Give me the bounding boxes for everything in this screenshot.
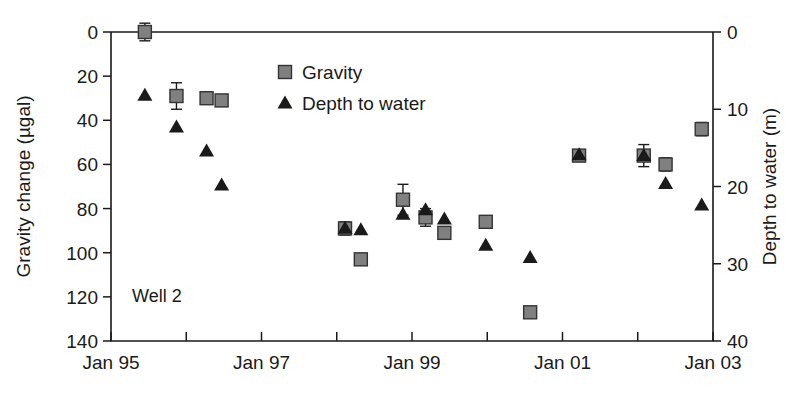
data-point-depth	[137, 88, 152, 101]
data-point-depth	[694, 198, 709, 211]
plot-frame	[111, 32, 713, 341]
data-point-depth	[523, 250, 538, 263]
y-axis-tick-label: 140	[66, 331, 98, 352]
y2-axis-tick-label: 10	[727, 99, 748, 120]
y2-axis-tick-label: 0	[727, 22, 738, 43]
data-point-gravity	[215, 94, 228, 107]
legend-marker-gravity	[279, 66, 292, 79]
y-axis-tick-label: 80	[77, 199, 98, 220]
data-point-gravity	[396, 193, 409, 206]
data-point-gravity	[438, 226, 451, 239]
data-point-depth	[478, 238, 493, 251]
data-point-gravity	[170, 90, 183, 103]
y-axis-tick-label: 120	[66, 287, 98, 308]
y-axis-title: Gravity change (µgal)	[13, 95, 34, 277]
legend-label-depth-to-water: Depth to water	[302, 93, 426, 114]
x-axis-tick-label: Jan 01	[534, 352, 591, 373]
x-axis-tick-label: Jan 97	[233, 352, 290, 373]
well-annotation: Well 2	[132, 286, 182, 306]
y2-axis-tick-label: 40	[727, 331, 748, 352]
legend-label-gravity: Gravity	[302, 62, 363, 83]
chart-svg: 020406080100120140Gravity change (µgal)0…	[0, 0, 796, 411]
x-axis-tick-label: Jan 95	[82, 352, 139, 373]
y2-axis-tick-label: 30	[727, 254, 748, 275]
legend-marker-depth	[278, 96, 293, 109]
y-axis-tick-label: 60	[77, 154, 98, 175]
data-point-depth	[437, 211, 452, 224]
data-point-gravity	[200, 92, 213, 105]
y-axis-tick-label: 40	[77, 110, 98, 131]
data-point-depth	[199, 143, 214, 156]
data-point-gravity	[524, 306, 537, 319]
y2-axis-title: Depth to water (m)	[759, 108, 780, 265]
data-point-depth	[658, 176, 673, 189]
data-point-gravity	[479, 215, 492, 228]
data-point-depth	[395, 207, 410, 220]
x-axis-tick-label: Jan 99	[383, 352, 440, 373]
y-axis-tick-label: 20	[77, 66, 98, 87]
data-point-depth	[169, 120, 184, 133]
data-point-depth	[353, 222, 368, 235]
y-axis-tick-label: 100	[66, 243, 98, 264]
data-point-depth	[214, 177, 229, 190]
x-axis-tick-label: Jan 03	[684, 352, 741, 373]
data-point-gravity	[659, 158, 672, 171]
gravity-depth-chart: 020406080100120140Gravity change (µgal)0…	[0, 0, 796, 411]
y-axis-tick-label: 0	[87, 22, 98, 43]
data-point-gravity	[695, 123, 708, 136]
data-point-gravity	[138, 26, 151, 39]
y2-axis-tick-label: 20	[727, 177, 748, 198]
data-point-gravity	[354, 253, 367, 266]
